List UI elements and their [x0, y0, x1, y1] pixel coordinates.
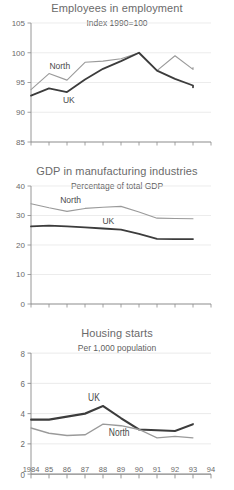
x-tick-label: 92	[171, 465, 179, 474]
shared-x-axis-labels: 198485868788899091929394	[0, 460, 234, 490]
x-tick-label: 87	[81, 465, 89, 474]
y-tick-label: 10	[16, 270, 25, 279]
y-tick-label: 95	[16, 78, 25, 87]
chart-panel-employees-in-employment: Employees in employment Index 1990=100 8…	[0, 0, 234, 160]
y-tick-label: 105	[12, 19, 26, 28]
y-tick-label: 0	[21, 300, 26, 309]
series-annotation-north: North	[60, 195, 81, 205]
y-tick-label: 2	[21, 439, 25, 450]
x-tick-label: 86	[63, 465, 71, 474]
x-tick-label: 85	[45, 465, 53, 474]
y-tick-label: 90	[16, 108, 25, 117]
y-tick-label: 4	[21, 408, 25, 419]
y-tick-label: 20	[16, 241, 25, 250]
chart-panel-gdp-in-manufacturing-industries: GDP in manufacturing industries Percenta…	[0, 163, 234, 323]
x-tick-label: 90	[135, 465, 143, 474]
x-tick-label: 89	[117, 465, 125, 474]
y-tick-label: 6	[21, 378, 25, 389]
x-tick-label: 93	[189, 465, 197, 474]
three-panel-line-chart-figure: Employees in employment Index 1990=100 8…	[0, 0, 234, 490]
plot-area: 859095100105NorthUK	[0, 0, 234, 160]
y-tick-label: 40	[16, 182, 25, 191]
series-annotation-north: North	[109, 426, 130, 438]
series-annotation-uk: UK	[88, 391, 100, 403]
chart-panel-housing-starts: Housing starts Per 1,000 population 0246…	[0, 325, 234, 490]
x-tick-label: 88	[99, 465, 107, 474]
plot-area: 010203040NorthUK	[0, 163, 234, 323]
x-tick-label: 1984	[23, 465, 40, 474]
y-tick-label: 85	[16, 138, 25, 147]
series-line-uk	[31, 53, 193, 96]
y-tick-label: 100	[12, 49, 26, 58]
y-tick-label: 30	[16, 211, 25, 220]
series-annotation-uk: UK	[102, 216, 114, 226]
x-tick-label: 91	[153, 465, 161, 474]
y-tick-label: 8	[21, 348, 25, 359]
series-annotation-uk: UK	[63, 95, 75, 105]
series-line-uk	[31, 226, 193, 240]
series-annotation-north: North	[49, 61, 70, 71]
x-tick-label: 94	[207, 465, 215, 474]
